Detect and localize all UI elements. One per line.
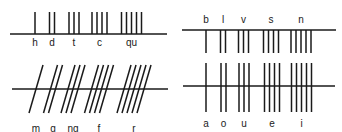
letter-label-g: g: [50, 124, 56, 132]
letter-label-f: f: [98, 124, 101, 132]
letter-label-ng: ng: [67, 124, 78, 132]
letter-label-b: b: [203, 15, 209, 25]
letter-label-qu: qu: [126, 38, 137, 48]
letter-label-a: a: [203, 119, 209, 129]
letter-label-u: u: [241, 119, 247, 129]
stroke-group-top-left: [10, 12, 167, 34]
stroke-group-bottom-left: [12, 65, 168, 113]
letter-label-e: e: [269, 119, 275, 129]
letter-label-s: s: [269, 15, 274, 25]
stroke-group-top-right: [182, 30, 336, 53]
letter-label-r: r: [132, 124, 135, 132]
letter-label-v: v: [241, 15, 246, 25]
letter-label-i: i: [300, 119, 302, 129]
letter-label-m: m: [32, 124, 40, 132]
letter-label-d: d: [49, 38, 55, 48]
letter-label-h: h: [32, 38, 38, 48]
letter-label-c: c: [97, 38, 102, 48]
letter-label-o: o: [221, 119, 227, 129]
ogham-diagram: [0, 0, 342, 132]
letter-label-n: n: [298, 15, 304, 25]
letter-label-l: l: [222, 15, 224, 25]
letter-label-t: t: [73, 38, 76, 48]
stroke-group-bottom-right: [183, 63, 335, 112]
